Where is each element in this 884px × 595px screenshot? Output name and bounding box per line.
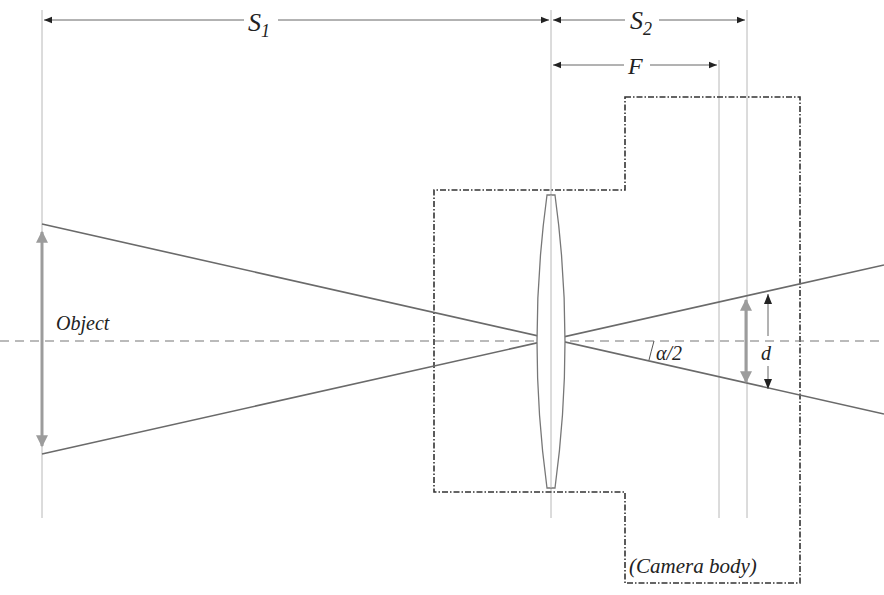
s2-label: S2 (630, 6, 652, 39)
s1-label: S1 (248, 8, 270, 41)
half-angle-arc (649, 341, 654, 360)
object-label: Object (56, 312, 110, 335)
focal-label: F (627, 53, 643, 79)
half-angle-label: α/2 (656, 342, 682, 364)
lens-diagram: S1 S2 F Object d α/2 (Camera body) (0, 0, 884, 595)
lower-ray (42, 265, 884, 454)
d-label: d (761, 342, 772, 364)
upper-ray (42, 224, 884, 414)
camera-body-label: (Camera body) (629, 554, 757, 578)
